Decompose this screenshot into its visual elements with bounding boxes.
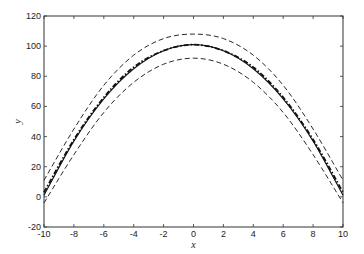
y-tick-label: 20: [31, 162, 41, 172]
x-tick-label: -4: [130, 229, 138, 239]
y-tick-label: 0: [36, 192, 41, 202]
series-line-true-curve: [44, 45, 343, 196]
x-tick-label: -6: [100, 229, 108, 239]
y-tick-label: 60: [31, 101, 41, 111]
x-tick-label: -8: [70, 229, 78, 239]
x-tick-label: 2: [221, 229, 226, 239]
y-axis-label: y: [12, 119, 23, 125]
x-tick-label: 10: [338, 229, 348, 239]
y-tick-label: -20: [28, 222, 41, 232]
series-line-upper-bound: [44, 34, 343, 180]
x-tick-label: -2: [160, 229, 168, 239]
x-tick-label: 0: [191, 229, 196, 239]
x-tick-label: 4: [251, 229, 256, 239]
y-tick-label: 120: [26, 11, 41, 21]
plot-frame: [44, 16, 343, 227]
y-tick-label: 100: [26, 41, 41, 51]
line-chart: -10-8-6-4-20246810-20020406080100120xy: [0, 0, 364, 254]
x-tick-label: 6: [281, 229, 286, 239]
x-axis-label: x: [190, 239, 196, 250]
series-line-lower-bound: [44, 58, 343, 203]
y-tick-label: 80: [31, 71, 41, 81]
y-tick-label: 40: [31, 132, 41, 142]
x-tick-label: 8: [311, 229, 316, 239]
